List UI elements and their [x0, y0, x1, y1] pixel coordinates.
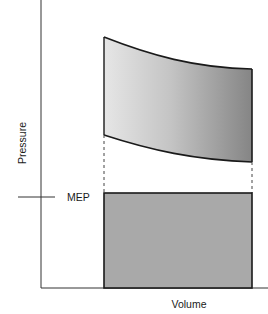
x-axis-label: Volume	[171, 298, 206, 310]
y-axis-label: Pressure	[16, 122, 28, 164]
mep-label: MEP	[67, 191, 90, 203]
pv-diagram: MEP Pressure Volume	[0, 0, 268, 314]
mep-rectangle	[104, 193, 252, 288]
work-area-region	[104, 37, 252, 162]
